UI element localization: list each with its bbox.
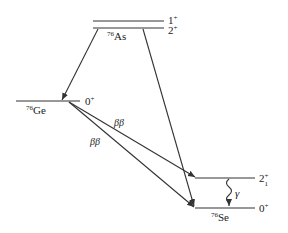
bb-label-lower: ββ	[89, 136, 100, 147]
as-nucleus-label: 76As	[107, 30, 126, 42]
level-scheme-diagram: 1+ 2+ 76As 0+ 76Ge 2+1 0+ 76Se ββ ββ γ	[0, 0, 288, 233]
ge-level-0plus-label: 0+	[85, 95, 95, 107]
se-level-2plus1-label: 2+1	[259, 172, 269, 188]
ge-nucleus-label: 76Ge	[26, 104, 46, 116]
ge-to-se-2plus-bb-arrow	[69, 102, 195, 177]
gamma-label: γ	[235, 187, 240, 199]
as-to-se-arrow	[143, 29, 194, 206]
se-nucleus-label: 76Se	[211, 211, 229, 223]
as-to-ge-arrow	[62, 29, 98, 100]
bb-label-upper: ββ	[113, 117, 124, 128]
gamma-wavy-arrow	[227, 179, 232, 206]
ge-to-se-0plus-bb-arrow	[69, 102, 194, 207]
as-level-2plus-label: 2+	[168, 24, 178, 36]
se-level-0plus-label: 0+	[259, 202, 269, 214]
